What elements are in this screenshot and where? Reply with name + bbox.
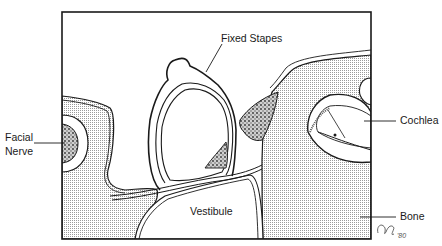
signature-year: '80 bbox=[397, 229, 406, 242]
label-bone: Bone bbox=[400, 210, 425, 223]
artist-signature bbox=[378, 225, 394, 234]
label-facial-nerve-line2: Nerve bbox=[5, 145, 33, 158]
label-facial-nerve-line1: Facial bbox=[5, 131, 33, 144]
label-vestibule: Vestibule bbox=[190, 205, 233, 218]
leader-fixed-stapes bbox=[206, 44, 222, 72]
label-cochlea: Cochlea bbox=[400, 114, 439, 127]
label-fixed-stapes: Fixed Stapes bbox=[221, 32, 282, 45]
